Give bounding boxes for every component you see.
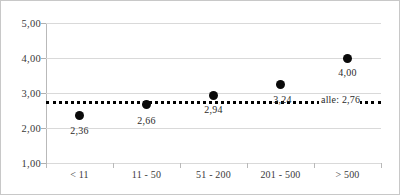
y-axis-label-5: 5,00: [1, 18, 41, 29]
gridline-2: [46, 128, 381, 129]
data-point-3[interactable]: [209, 91, 218, 100]
data-point-4[interactable]: [276, 80, 285, 89]
x-axis-label-3: 51 - 200: [180, 169, 247, 180]
data-label-2: 2,66: [137, 115, 155, 126]
data-point-1[interactable]: [75, 111, 84, 120]
x-tick-2: [180, 163, 181, 168]
x-tick-5: [381, 163, 382, 168]
data-label-4: 3,24: [273, 94, 291, 105]
mean-line-label: alle: 2,76: [319, 94, 360, 105]
x-tick-3: [247, 163, 248, 168]
x-tick-1: [113, 163, 114, 168]
data-label-5: 4,00: [338, 67, 356, 78]
x-axis-label-1: < 11: [46, 169, 113, 180]
gridline-1: [46, 163, 381, 164]
gridline-5: [46, 23, 381, 24]
chart-figure: 5,00 4,00 3,00 2,00 1,00 alle: 2,76 2,36…: [0, 0, 400, 195]
x-axis-label-4: 201 - 500: [247, 169, 314, 180]
y-axis-label-4: 4,00: [1, 53, 41, 64]
y-axis-label-2: 2,00: [1, 123, 41, 134]
data-point-2[interactable]: [142, 100, 151, 109]
plot-area: alle: 2,76 2,36 2,66 2,94 3,24 4,00: [46, 23, 381, 163]
x-tick-0: [46, 163, 47, 168]
gridline-4: [46, 58, 381, 59]
data-point-5[interactable]: [343, 54, 352, 63]
data-label-1: 2,36: [70, 125, 88, 136]
y-axis-label-3: 3,00: [1, 88, 41, 99]
data-label-3: 2,94: [204, 104, 222, 115]
x-axis-label-2: 11 - 50: [113, 169, 180, 180]
x-axis-label-5: > 500: [314, 169, 381, 180]
y-axis-label-1: 1,00: [1, 158, 41, 169]
x-tick-4: [314, 163, 315, 168]
